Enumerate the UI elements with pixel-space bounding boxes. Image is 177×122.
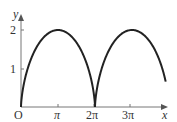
y-axis-arrow-icon	[18, 14, 24, 21]
x-tick-label: 3π	[122, 108, 134, 122]
x-tick-label: π	[54, 108, 61, 122]
y-tick-label: 2	[10, 23, 16, 37]
cycloid-chart: O π 2π 3π x y 1 2	[0, 0, 177, 122]
y-axis-label: y	[12, 7, 19, 21]
origin-label: O	[14, 108, 23, 122]
axes	[18, 14, 168, 110]
y-tick-label: 1	[10, 62, 16, 76]
cycloid-curve	[21, 30, 166, 107]
x-axis-label: x	[161, 108, 168, 122]
x-tick-label: 2π	[86, 108, 98, 122]
